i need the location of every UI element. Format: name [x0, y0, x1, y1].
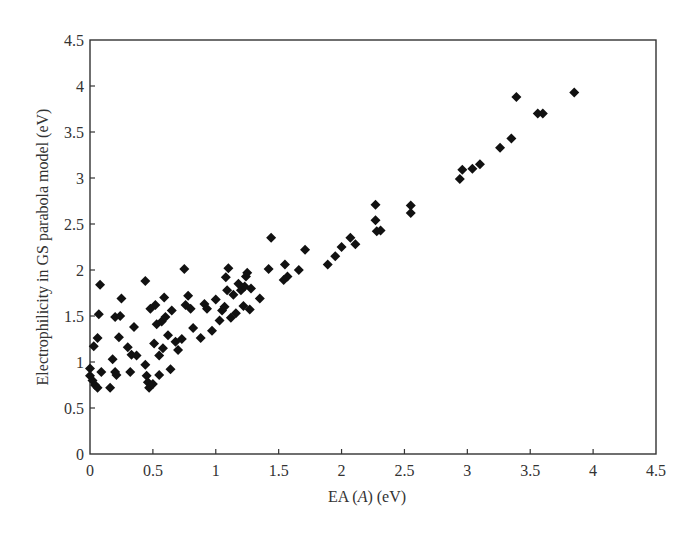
data-point-diamond — [149, 339, 159, 349]
x-tick-label: 3 — [463, 462, 471, 479]
y-tick-label: 0 — [76, 446, 84, 463]
y-tick-label: 2.5 — [64, 216, 84, 233]
data-point-diamond — [215, 316, 225, 326]
data-point-diamond — [188, 323, 198, 333]
data-point-diamond — [280, 259, 290, 269]
y-tick-label: 2 — [76, 262, 84, 279]
data-point-diamond — [165, 364, 175, 374]
plot-border — [90, 40, 656, 454]
data-point-diamond — [323, 259, 333, 269]
data-point-diamond — [266, 233, 276, 243]
x-tick-label: 1.5 — [269, 462, 289, 479]
y-tick-label: 0.5 — [64, 400, 84, 417]
x-tick-label: 1 — [212, 462, 220, 479]
data-point-diamond — [129, 322, 139, 332]
data-point-diamond — [294, 265, 304, 275]
data-point-diamond — [264, 264, 274, 274]
data-points — [85, 87, 579, 392]
data-point-diamond — [114, 332, 124, 342]
y-tick-label: 3.5 — [64, 124, 84, 141]
data-point-diamond — [163, 330, 173, 340]
data-point-diamond — [337, 242, 347, 252]
x-tick-label: 4.5 — [646, 462, 666, 479]
scatter-chart: 00.511.522.533.544.5 00.511.522.533.544.… — [0, 0, 699, 536]
y-tick-label: 1 — [76, 354, 84, 371]
data-point-diamond — [154, 370, 164, 380]
y-tick-label: 4 — [76, 78, 84, 95]
data-point-diamond — [371, 200, 381, 210]
data-point-diamond — [511, 92, 521, 102]
data-point-diamond — [457, 165, 467, 175]
x-tick-label: 0 — [86, 462, 94, 479]
data-point-diamond — [211, 294, 221, 304]
data-point-diamond — [94, 309, 104, 319]
x-tick-label: 3.5 — [520, 462, 540, 479]
data-point-diamond — [221, 272, 231, 282]
x-tick-label: 0.5 — [143, 462, 163, 479]
data-point-diamond — [196, 333, 206, 343]
x-tick-label: 2.5 — [394, 462, 414, 479]
data-point-diamond — [330, 251, 340, 261]
data-point-diamond — [569, 87, 579, 97]
y-tick-label: 3 — [76, 170, 84, 187]
data-point-diamond — [95, 280, 105, 290]
data-point-diamond — [179, 264, 189, 274]
x-tick-label: 2 — [338, 462, 346, 479]
data-point-diamond — [173, 345, 183, 355]
data-point-diamond — [371, 215, 381, 225]
data-point-diamond — [167, 305, 177, 315]
y-tick-label: 4.5 — [64, 32, 84, 49]
data-point-diamond — [455, 174, 465, 184]
data-point-diamond — [116, 294, 126, 304]
data-point-diamond — [495, 143, 505, 153]
data-point-diamond — [105, 383, 115, 393]
data-point-diamond — [159, 293, 169, 303]
data-point-diamond — [140, 276, 150, 286]
data-point-diamond — [140, 360, 150, 370]
data-point-diamond — [108, 354, 118, 364]
x-tick-label: 4 — [589, 462, 597, 479]
data-point-diamond — [406, 208, 416, 218]
data-point-diamond — [467, 164, 477, 174]
y-axis-title: Electrophilicity in GS parabola model (e… — [34, 109, 52, 386]
data-point-diamond — [183, 291, 193, 301]
data-point-diamond — [300, 245, 310, 255]
y-tick-label: 1.5 — [64, 308, 84, 325]
data-point-diamond — [223, 263, 233, 273]
data-point-diamond — [475, 159, 485, 169]
plot-frame — [90, 40, 656, 454]
data-point-diamond — [538, 109, 548, 119]
data-point-diamond — [125, 367, 135, 377]
data-point-diamond — [207, 326, 217, 336]
x-axis-title: EA (A) (eV) — [328, 488, 406, 506]
data-point-diamond — [93, 333, 103, 343]
data-point-diamond — [255, 294, 265, 304]
data-point-diamond — [96, 367, 106, 377]
data-point-diamond — [506, 133, 516, 143]
